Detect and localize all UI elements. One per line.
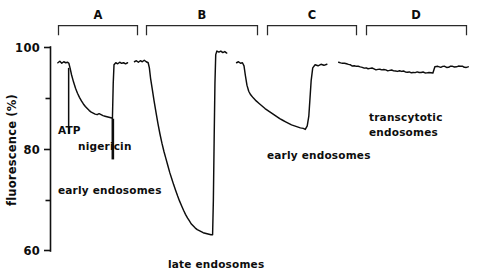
y-tick-label-100: 100 bbox=[15, 41, 40, 55]
annotation-transcytotic-line1: transcytotic bbox=[369, 111, 443, 123]
y-tick-label-60: 60 bbox=[23, 244, 40, 258]
annotation-early-endosomes-a: early endosomes bbox=[58, 184, 162, 196]
trace-c bbox=[237, 62, 327, 130]
bracket-d: D bbox=[367, 8, 467, 35]
bracket-label-b: B bbox=[198, 8, 207, 22]
annotation-late-endosomes-b: late endosomes bbox=[168, 258, 264, 270]
bracket-a: A bbox=[59, 8, 138, 35]
annotation-transcytotic-line2: endosomes bbox=[369, 126, 438, 138]
annotation-nigericin: nigericin bbox=[78, 140, 132, 152]
annotation-early-endosomes-c: early endosomes bbox=[267, 149, 371, 161]
bracket-label-c: C bbox=[308, 8, 316, 22]
bracket-label-a: A bbox=[94, 8, 103, 22]
bracket-c: C bbox=[268, 8, 357, 35]
figure-container: 100 80 60 fluorescence (%) A B C D ATP n… bbox=[0, 0, 492, 280]
annotation-atp: ATP bbox=[58, 124, 81, 136]
y-tick-label-80: 80 bbox=[23, 143, 40, 157]
trace-d bbox=[339, 62, 469, 73]
fluorescence-plot: 100 80 60 fluorescence (%) A B C D ATP n… bbox=[0, 0, 492, 280]
y-axis-title: fluorescence (%) bbox=[5, 94, 19, 206]
bracket-b: B bbox=[147, 8, 258, 35]
bracket-label-d: D bbox=[411, 8, 421, 22]
trace-b bbox=[134, 51, 226, 235]
